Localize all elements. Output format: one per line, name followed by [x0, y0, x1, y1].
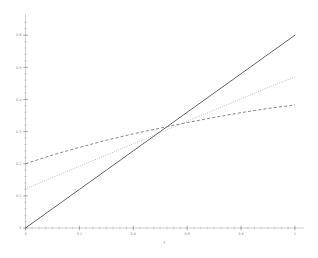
x-tick-label: 1	[294, 232, 296, 236]
data-series-layer	[26, 35, 295, 228]
plot-canvas: 00.10.20.30.40.50.6 00.20.40.60.81 t	[0, 0, 318, 258]
y-tick-label: 0.4	[16, 98, 21, 102]
x-tick-label: 0.2	[77, 232, 82, 236]
x-axis-title: t	[163, 240, 165, 245]
y-tick-label: 0	[19, 226, 21, 230]
series-line-dashed	[26, 105, 295, 164]
series-line-solid	[26, 35, 295, 228]
y-tick-label: 0.1	[16, 194, 21, 198]
x-tick-labels: 00.20.40.60.81	[24, 232, 296, 236]
y-tick-label: 0.3	[16, 130, 21, 134]
x-tick-label: 0.8	[238, 232, 243, 236]
y-tick-label: 0.5	[16, 66, 21, 70]
y-tick-labels: 00.10.20.30.40.50.6	[16, 33, 21, 230]
x-tick-label: 0.6	[184, 232, 189, 236]
x-tick-label: 0.4	[131, 232, 136, 236]
chart-figure: 00.10.20.30.40.50.6 00.20.40.60.81 t	[0, 0, 318, 258]
y-tick-label: 0.6	[16, 33, 21, 37]
series-line-dotted	[26, 77, 295, 189]
y-tick-label: 0.2	[16, 162, 21, 166]
y-axis: 00.10.20.30.40.50.6	[16, 15, 28, 231]
x-tick-label: 0	[24, 232, 26, 236]
x-axis: 00.20.40.60.81	[24, 226, 304, 237]
x-minor-ticks	[26, 227, 295, 230]
